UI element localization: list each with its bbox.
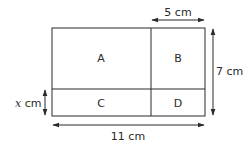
region-c-label: C [97, 97, 105, 110]
right-height-label: 7 cm [216, 65, 243, 78]
x-unit: cm [21, 97, 41, 110]
bottom-width-label: 11 cm [111, 130, 145, 143]
top-width-label: 5 cm [164, 6, 191, 19]
region-a-label: A [97, 52, 105, 65]
area-diagram: A B C D 5 cm 7 cm x cm 11 cm [0, 0, 252, 152]
region-b-label: B [174, 52, 182, 65]
left-height-label: x cm [15, 97, 41, 110]
region-d-label: D [174, 97, 182, 110]
